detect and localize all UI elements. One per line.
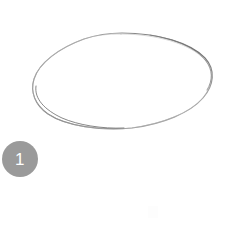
ellipse-outline-ghost-path	[33, 34, 212, 129]
sketch-canvas: 1	[0, 0, 242, 229]
faint-smudge-artifact	[148, 206, 158, 218]
ellipse-pressure-accent-2-path	[150, 35, 211, 90]
step-number-label: 1	[15, 151, 25, 168]
ellipse-pressure-accent-path	[36, 86, 124, 128]
hand-drawn-ellipse-drawing	[0, 0, 242, 229]
ellipse-outline-path	[33, 33, 213, 129]
step-number-badge: 1	[2, 141, 38, 177]
